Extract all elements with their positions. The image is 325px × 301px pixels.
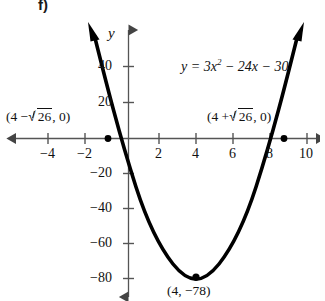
equation-term1: 3x	[204, 59, 217, 74]
point-right-root	[281, 135, 288, 142]
right-root-label: (4 +√26, 0)	[207, 108, 271, 125]
x-tick-label-4: 4	[192, 146, 199, 162]
x-tick-label-10: 10	[299, 146, 313, 162]
left-root-open: (4 −	[6, 109, 28, 124]
x-tick-label-2: 2	[155, 146, 162, 162]
y-tick-label--60: −60	[90, 235, 112, 251]
x-tick-label-8: 8	[266, 146, 273, 162]
right-root-close: , 0)	[253, 109, 271, 124]
x-tick-label--2: −2	[77, 146, 92, 162]
page-edge	[320, 0, 325, 301]
y-tick-label--80: −80	[90, 270, 112, 286]
left-root-close: , 0)	[52, 109, 70, 124]
y-axis-label: y	[108, 25, 115, 42]
equation-annotation: y = 3x2 − 24x − 30	[181, 57, 289, 75]
vertex-label: (4, −78)	[167, 283, 211, 299]
left-root-radicand: 26	[37, 108, 53, 125]
left-root-label: (4 −√26, 0)	[6, 108, 70, 125]
point-left-root	[105, 135, 112, 142]
equation-lhs: y	[181, 59, 187, 74]
right-root-open: (4 +	[207, 109, 229, 124]
figure-canvas: f)	[0, 0, 325, 301]
point-vertex	[192, 273, 199, 280]
x-tick-label-6: 6	[229, 146, 236, 162]
right-root-radicand: 26	[238, 108, 254, 125]
y-tick-label--20: −20	[90, 165, 112, 181]
x-tick-label--4: −4	[40, 146, 55, 162]
y-tick-label-40: 40	[98, 58, 112, 74]
equation-rest: − 24x − 30	[225, 59, 289, 74]
y-tick-label-20: 20	[98, 94, 112, 110]
equation-exponent: 2	[217, 57, 222, 67]
y-tick-label--40: −40	[90, 200, 112, 216]
equation-equals: =	[191, 59, 200, 74]
